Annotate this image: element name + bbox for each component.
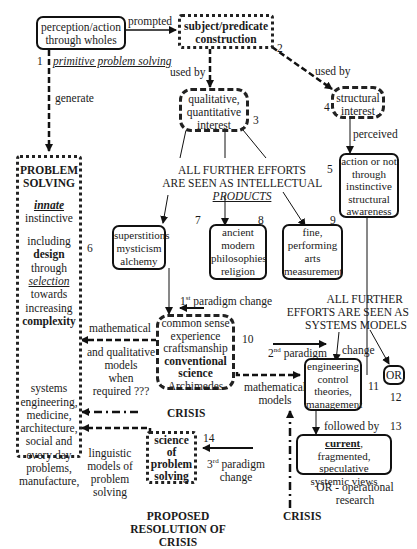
node-text: structural [341,193,397,206]
node-text: theories, [306,385,360,398]
node-text: medicine, [19,409,79,422]
node-text: science [159,367,232,380]
node-text: speculative [298,462,390,475]
node-text: fine, [284,226,341,239]
node-number-7: 7 [195,214,201,226]
node-number-9: 9 [330,214,336,226]
node-common-sense: common sense experience craftsmanship co… [156,314,235,390]
node-number-10: 10 [242,333,254,345]
systems-models-caption: ALL FURTHER EFFORTS ARE SEEN AS SYSTEMS … [285,293,415,332]
label-line: research [310,494,400,507]
label-line: models of [84,460,136,473]
label-line: required ??? [84,385,158,398]
label-line: change [206,471,266,484]
node-science-of-problem-solving: science of problem solving [146,431,197,484]
label-line: mathematical [240,381,310,394]
node-action-or-not: action or not through instinctive struct… [339,153,399,218]
label-line: problem [84,473,136,486]
node-text: awareness [341,205,397,218]
node-number-8: 8 [258,214,264,226]
caption-line: ALL FURTHER EFFORTS [142,164,342,177]
node-text: conventional [159,355,232,368]
node-text: through wholes [38,34,124,47]
node-text: engineering [306,360,360,373]
label-line: and qualitative [84,346,158,359]
mathematical-models-label: mathematical models [240,381,310,407]
label-line: models [84,359,158,372]
node-text: of [149,446,194,458]
node-text: increasing [19,302,79,315]
perceived-label: perceived [353,128,398,141]
node-text: architecture, [19,422,79,435]
caption-line: ALL FURTHER [285,293,415,306]
node-text: solving [149,470,194,482]
node-problem-solving: PROBLEM SOLVING innate instinctive inclu… [16,155,82,458]
caption-line: SYSTEMS MODELS [285,319,415,332]
node-text: modern [211,239,265,252]
node-text: control [306,373,360,386]
node-text: craftsmanship [159,342,232,355]
linguistic-models-label: linguistic models of problem solving [84,447,136,499]
label-text: paradigm [222,458,265,470]
node-text: ancient [211,226,265,239]
node-number-14: 14 [203,432,215,444]
node-text: performing [284,239,341,252]
crisis-left-label: CRISIS [167,407,205,420]
node-number-12: 12 [390,391,402,403]
generate-label: generate [55,92,94,105]
node-text: instinctive [341,180,397,193]
node-text: instinctive [19,212,79,225]
node-number-1: 1 [37,55,43,67]
node-text: through [341,168,397,181]
node-text: arts [284,252,341,265]
node-text: OR [385,369,403,382]
node-perception-action: perception/action through wholes [36,16,126,50]
crisis-bottom-label: CRISIS [283,510,321,523]
node-number-13: 13 [390,420,402,432]
node-text: social and [19,435,79,448]
node-number-2: 2 [277,42,283,54]
node-title: PROBLEM [19,164,79,177]
node-text: problem [149,458,194,470]
node-text: interest [182,119,246,132]
node-superstitions: superstitions mysticism alchemy [112,225,166,270]
node-text: complexity [19,315,79,328]
node-text: innate [19,199,79,212]
node-text: superstitions [114,229,164,242]
node-text: interest [334,105,382,118]
label-line: models [240,394,310,407]
node-text: selection [19,275,79,288]
label-line: OR - operational [310,481,400,494]
node-text: common sense [159,317,232,330]
node-or: OR [383,365,405,385]
label-text: paradigm change [193,295,272,307]
node-number-11: 11 [368,380,379,392]
ordinal-suffix: nd [274,346,281,354]
node-text-emphasis: current [325,437,360,449]
node-text: problems, [19,462,79,475]
node-text: experience [159,330,232,343]
node-text: religion [211,265,265,278]
node-structural-interest: structural interest [331,86,385,119]
node-current-fragmented: current, fragmented, speculative systemi… [296,434,392,475]
first-paradigm-change-label: 1st paradigm change [180,292,272,308]
node-number-6: 6 [87,242,93,254]
node-text: engineering, [19,396,79,409]
node-text: through [19,262,79,275]
mathematical-label: mathematical [89,322,151,335]
node-text: manufacture, [19,475,79,488]
node-text: structural [334,92,382,105]
node-text: qualitative, [182,93,246,106]
caption-line: ARE SEEN AS INTELLECTUAL [162,177,322,189]
node-text: systems [19,382,79,395]
node-text: action or not [341,155,397,168]
node-text: Archimedes [159,380,232,393]
used-by-left-label: used by [170,66,205,79]
node-text: quantitative [182,106,246,119]
products-emphasis: PRODUCTS [213,190,272,202]
node-text: every day [19,449,79,462]
proposed-resolution-caption: PROPOSED RESOLUTION OF CRISIS [118,510,238,549]
label-line: solving [84,486,136,499]
ordinal-suffix: rd [213,457,219,465]
or-definition-label: OR - operational research [310,481,400,507]
